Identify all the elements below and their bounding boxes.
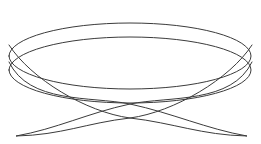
plot-background [0, 0, 261, 144]
lissajous-curve-plot [0, 0, 261, 144]
figure-canvas [0, 0, 261, 144]
